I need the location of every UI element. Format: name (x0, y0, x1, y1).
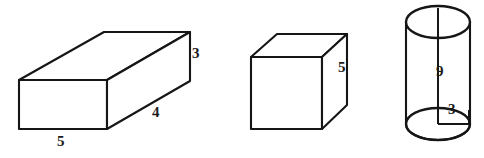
cube-front-face (251, 57, 322, 129)
prism-front-face (19, 80, 107, 129)
rectangular-prism-drawing (0, 0, 230, 158)
cylinder-height-label: 9 (436, 64, 444, 79)
geometry-figure-canvas: 5 4 3 5 9 3 (0, 0, 484, 158)
prism-width-label: 5 (57, 134, 65, 149)
cylinder-drawing (384, 0, 484, 158)
cube-drawing (230, 0, 360, 158)
prism-depth-label: 4 (152, 105, 160, 120)
cube-height-label: 5 (338, 60, 346, 75)
cylinder-radius-label: 3 (448, 102, 456, 117)
prism-height-label: 3 (192, 46, 200, 61)
